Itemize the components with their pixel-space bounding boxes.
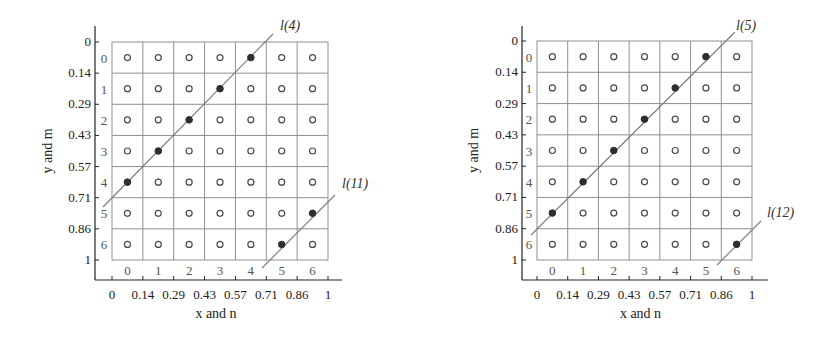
row-index-label: 2 <box>101 113 108 128</box>
open-point <box>642 241 648 247</box>
line-a-label: l(4) <box>280 18 301 34</box>
open-point <box>310 117 316 123</box>
open-point <box>155 117 161 123</box>
open-point <box>155 210 161 216</box>
open-point <box>217 117 223 123</box>
open-point <box>124 55 130 61</box>
filled-point <box>733 241 740 248</box>
open-point <box>248 86 254 92</box>
open-point <box>310 86 316 92</box>
y-axis-title: y and m <box>40 128 55 173</box>
x-tick-label: 0 <box>534 287 541 302</box>
open-point <box>124 210 130 216</box>
y-tick-label: 0.71 <box>68 190 91 205</box>
row-index-label: 1 <box>101 82 108 97</box>
open-point <box>279 179 285 185</box>
col-index-label: 3 <box>641 263 648 278</box>
x-tick-label: 0.86 <box>286 287 309 302</box>
col-index-label: 2 <box>611 263 618 278</box>
open-point <box>217 210 223 216</box>
row-index-label: 0 <box>526 50 533 65</box>
open-point <box>580 210 586 216</box>
open-point <box>124 117 130 123</box>
open-point <box>703 241 709 247</box>
x-tick-label: 0.71 <box>255 287 278 302</box>
row-index-label: 4 <box>526 175 533 190</box>
line-b-label: l(12) <box>767 205 795 221</box>
y-tick-label: 1 <box>512 252 519 267</box>
open-point <box>155 241 161 247</box>
data-points <box>124 54 316 247</box>
open-point <box>703 179 709 185</box>
open-point <box>186 179 192 185</box>
open-point <box>672 148 678 154</box>
open-point <box>310 179 316 185</box>
axes: 00.140.290.430.570.710.86100.140.290.430… <box>466 26 768 321</box>
open-point <box>611 116 617 122</box>
open-point <box>279 86 285 92</box>
open-point <box>248 241 254 247</box>
y-tick-label: 0.57 <box>68 159 91 174</box>
filled-point <box>549 210 556 217</box>
open-point <box>611 179 617 185</box>
y-tick-label: 0.43 <box>68 127 91 142</box>
y-tick-label: 0.71 <box>495 189 518 204</box>
open-point <box>186 241 192 247</box>
open-point <box>217 241 223 247</box>
open-point <box>186 86 192 92</box>
open-point <box>248 210 254 216</box>
open-point <box>580 54 586 60</box>
open-point <box>279 210 285 216</box>
col-index-label: 1 <box>155 263 162 278</box>
x-tick-label: 0.14 <box>556 287 579 302</box>
filled-point <box>217 85 224 92</box>
col-index-label: 0 <box>549 263 556 278</box>
open-point <box>611 85 617 91</box>
open-point <box>580 148 586 154</box>
col-index-label: 6 <box>733 263 740 278</box>
open-point <box>155 179 161 185</box>
open-point <box>611 54 617 60</box>
x-tick-label: 1 <box>325 287 332 302</box>
open-point <box>186 210 192 216</box>
open-point <box>549 116 555 122</box>
open-point <box>248 148 254 154</box>
open-point <box>549 85 555 91</box>
open-point <box>248 179 254 185</box>
y-tick-label: 0 <box>85 34 92 49</box>
open-point <box>703 210 709 216</box>
open-point <box>155 55 161 61</box>
y-tick-label: 0 <box>512 33 519 48</box>
open-point <box>734 85 740 91</box>
col-index-label: 2 <box>186 263 193 278</box>
filled-point <box>124 179 131 186</box>
open-point <box>642 148 648 154</box>
x-tick-label: 0 <box>109 287 116 302</box>
col-index-label: 5 <box>278 263 285 278</box>
y-axis-title: y and m <box>466 128 481 173</box>
filled-point <box>248 54 255 61</box>
open-point <box>642 179 648 185</box>
y-tick-label: 0.57 <box>495 158 518 173</box>
x-tick-label: 0.57 <box>648 287 671 302</box>
line-a <box>531 32 735 235</box>
open-point <box>642 54 648 60</box>
y-tick-label: 0.29 <box>68 96 91 111</box>
row-index-label: 6 <box>101 237 108 252</box>
open-point <box>217 179 223 185</box>
open-point <box>124 86 130 92</box>
row-index-label: 5 <box>526 206 533 221</box>
row-index-label: 6 <box>526 237 533 252</box>
filled-point <box>186 117 193 124</box>
open-point <box>279 55 285 61</box>
open-point <box>248 117 254 123</box>
open-point <box>611 241 617 247</box>
col-index-label: 4 <box>248 263 255 278</box>
open-point <box>672 116 678 122</box>
y-tick-label: 0.86 <box>68 221 91 236</box>
open-point <box>734 179 740 185</box>
x-tick-label: 0.43 <box>193 287 216 302</box>
open-point <box>124 241 130 247</box>
x-tick-label: 0.29 <box>162 287 185 302</box>
filled-point <box>703 53 710 60</box>
